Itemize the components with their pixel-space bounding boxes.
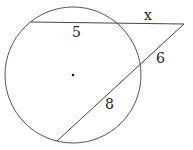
secant-circle-diagram: x 5 6 8 xyxy=(0,0,193,150)
label-6: 6 xyxy=(156,50,165,66)
label-x: x xyxy=(144,7,152,23)
center-dot xyxy=(72,74,75,77)
diagram-canvas: x 5 6 8 xyxy=(0,0,193,150)
label-8: 8 xyxy=(105,96,114,112)
label-5: 5 xyxy=(72,24,81,40)
secant-top-line xyxy=(31,22,184,24)
